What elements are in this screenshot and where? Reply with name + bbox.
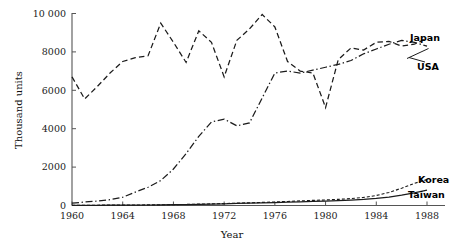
y-tick-labels: 0200040006000800010 000 (33, 8, 66, 211)
x-axis-title: Year (220, 229, 244, 240)
y-tick-label: 6000 (42, 85, 66, 96)
line-chart-canvas: 0200040006000800010 000 1960196419681972… (0, 0, 471, 246)
y-tick-label: 2000 (42, 161, 66, 172)
x-tick-label: 1972 (212, 210, 236, 221)
series-line-japan (72, 14, 427, 107)
y-tick-marks (72, 14, 76, 206)
x-tick-label: 1964 (111, 210, 135, 221)
x-tick-labels: 19601964196819721976198019841988 (60, 210, 439, 221)
x-tick-label: 1984 (364, 210, 388, 221)
series-label-usa: USA (417, 61, 440, 72)
series-line-taiwan (72, 190, 427, 205)
series-label-korea: Korea (418, 174, 449, 185)
series-label-japan: Japan (409, 32, 440, 43)
series-line-usa (72, 40, 427, 203)
y-tick-label: 10 000 (33, 8, 66, 19)
x-tick-label: 1960 (60, 210, 84, 221)
series-label-taiwan: Taiwan (408, 189, 445, 200)
y-tick-label: 8000 (42, 46, 66, 57)
x-tick-label: 1968 (161, 210, 185, 221)
y-axis-title: Thousand units (13, 71, 24, 149)
x-tick-label: 1980 (313, 210, 337, 221)
x-tick-label: 1976 (263, 210, 287, 221)
chart-figure: 0200040006000800010 000 1960196419681972… (0, 0, 471, 246)
series-line-korea (72, 180, 427, 206)
x-tick-label: 1988 (415, 210, 439, 221)
y-tick-label: 4000 (42, 123, 66, 134)
japan-leader-line (407, 49, 429, 59)
